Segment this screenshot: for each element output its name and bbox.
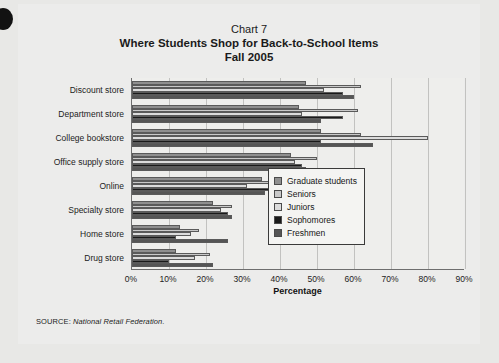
legend-item: Seniors (274, 187, 357, 200)
bar (132, 95, 354, 99)
legend-item: Graduate students (274, 174, 357, 187)
legend-item: Freshmen (274, 226, 357, 239)
legend-swatch-icon (274, 203, 282, 211)
source-label: SOURCE: (36, 317, 71, 326)
chart-subtitle: Fall 2005 (18, 50, 480, 64)
y-axis-tick-label: Department store (58, 109, 124, 119)
y-axis-labels: Discount storeDepartment storeCollege bo… (36, 78, 128, 270)
x-axis-tick-label: 80% (418, 274, 435, 284)
source-name: National Retail Federation. (73, 317, 165, 326)
gridline (465, 78, 466, 269)
y-axis-tick-label: College bookstore (55, 133, 124, 143)
legend-label: Seniors (287, 189, 316, 199)
legend-swatch-icon (274, 216, 282, 224)
source-note: SOURCE: National Retail Federation. (36, 317, 165, 326)
bar (132, 263, 213, 267)
legend-swatch-icon (274, 190, 282, 198)
x-axis-tick-label: 30% (233, 274, 250, 284)
x-axis-tick-label: 20% (196, 274, 213, 284)
x-axis-tick-label: 90% (455, 274, 472, 284)
bar (132, 143, 373, 147)
bar (132, 191, 265, 195)
y-axis-tick-label: Office supply store (54, 157, 124, 167)
x-axis-tick-label: 50% (307, 274, 324, 284)
x-axis-tick-label: 60% (344, 274, 361, 284)
bar-group (132, 105, 464, 123)
chart-sheet: Chart 7 Where Students Shop for Back-to-… (18, 4, 480, 344)
x-axis-tick-label: 40% (270, 274, 287, 284)
bar-group (132, 81, 464, 99)
y-axis-tick-label: Online (99, 181, 124, 191)
y-axis-tick-label: Discount store (70, 85, 124, 95)
x-axis-tick-label: 0% (125, 274, 137, 284)
legend-item: Juniors (274, 200, 357, 213)
y-axis-tick-label: Drug store (84, 253, 124, 263)
legend-label: Graduate students (287, 176, 357, 186)
binding-hole-mark (0, 8, 13, 30)
bar (132, 119, 321, 123)
chart-area: Discount storeDepartment storeCollege bo… (36, 78, 464, 283)
bar-group (132, 129, 464, 147)
x-axis-title: Percentage (131, 286, 464, 296)
legend-label: Sophomores (287, 215, 335, 225)
legend-swatch-icon (274, 177, 282, 185)
bar-group (132, 249, 464, 267)
chart-number: Chart 7 (18, 22, 480, 36)
y-axis-tick-label: Home store (80, 229, 124, 239)
legend-label: Juniors (287, 202, 314, 212)
x-axis-tick-label: 70% (381, 274, 398, 284)
page-background: Chart 7 Where Students Shop for Back-to-… (0, 0, 499, 363)
legend-label: Freshmen (287, 228, 325, 238)
bar (132, 215, 232, 219)
legend-swatch-icon (274, 229, 282, 237)
y-axis-tick-label: Specialty store (68, 205, 124, 215)
chart-legend: Graduate studentsSeniorsJuniorsSophomore… (268, 168, 365, 245)
page-title: Where Students Shop for Back-to-School I… (18, 36, 480, 50)
legend-item: Sophomores (274, 213, 357, 226)
x-axis-tick-label: 10% (159, 274, 176, 284)
bar (132, 239, 228, 243)
chart-title-block: Chart 7 Where Students Shop for Back-to-… (18, 22, 480, 64)
